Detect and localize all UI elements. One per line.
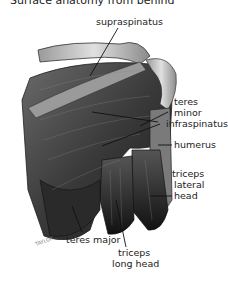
- label-triceps-long-1: triceps: [118, 247, 150, 258]
- label-teres-minor-2: minor: [174, 107, 202, 118]
- label-humerus: humerus: [174, 139, 216, 150]
- label-triceps-lateral-3: head: [174, 190, 198, 201]
- label-teres-major: teres major: [66, 234, 121, 245]
- label-triceps-lateral-1: triceps: [172, 168, 204, 179]
- artist-signature: TAYLOR: [33, 235, 54, 248]
- label-triceps-long-2: long head: [112, 258, 159, 269]
- label-infraspinatus: infraspinatus: [166, 118, 228, 129]
- label-supraspinatus: supraspinatus: [96, 16, 163, 27]
- label-triceps-lateral-2: lateral: [174, 179, 204, 190]
- label-teres-minor-1: teres: [174, 96, 198, 107]
